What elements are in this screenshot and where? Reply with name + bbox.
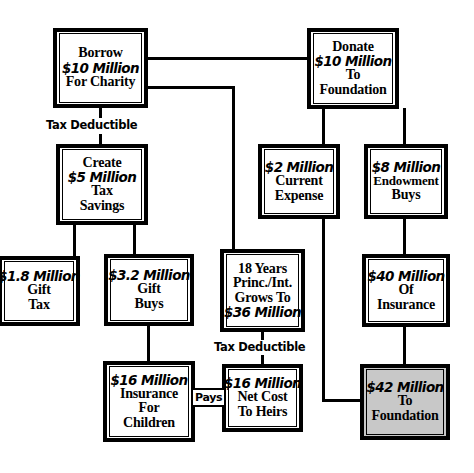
node-gift-buys-line-1: Gift bbox=[137, 282, 160, 297]
node-gift-tax-line-1: Gift bbox=[27, 283, 50, 298]
node-insurance-children-line-2: For bbox=[138, 401, 159, 416]
node-donate-line-0: Donate bbox=[332, 40, 374, 55]
node-donate-inner: Donate $10 Million To Foundation bbox=[313, 33, 393, 104]
node-borrow-line-1: $10 Million bbox=[62, 61, 139, 75]
node-net-cost-line-2: To Heirs bbox=[238, 405, 288, 420]
node-current-expense-line-0: $2 Million bbox=[265, 160, 333, 174]
node-endowment-buys[interactable]: $8 Million Endowment Buys bbox=[364, 144, 448, 219]
node-insurance-children-line-3: Children bbox=[123, 416, 175, 431]
node-foundation-42m-line-0: $42 Million bbox=[366, 380, 443, 394]
node-current-expense-line-1: Current bbox=[275, 174, 322, 189]
node-create-line-2: Tax bbox=[91, 184, 112, 199]
node-growth-inner: 18 Years Princ./Int. Grows To $36 Millio… bbox=[226, 254, 299, 327]
node-donate-line-3: Foundation bbox=[319, 83, 386, 98]
connector-borrow-to-donate bbox=[146, 57, 309, 60]
connector-endowment-to-insurance40 bbox=[403, 217, 406, 255]
edge-label-tax-deductible-mid: Tax Deductible bbox=[213, 340, 306, 354]
connector-create-to-giftbuys-vertical bbox=[133, 223, 136, 255]
node-insurance-for-children[interactable]: $16 Million Insurance For Children bbox=[103, 361, 195, 442]
node-gift-buys-inner: $3.2 Million Gift Buys bbox=[110, 259, 188, 321]
node-donate[interactable]: Donate $10 Million To Foundation bbox=[307, 28, 399, 109]
node-current-expense-line-2: Expense bbox=[275, 189, 323, 204]
connector-borrow-to-growth-horizontal bbox=[146, 86, 235, 89]
node-insurance-40m-line-1: Of bbox=[398, 283, 413, 298]
node-net-cost-line-0: $16 Million bbox=[224, 376, 301, 390]
node-insurance-40m-inner: $40 Million Of Insurance bbox=[368, 259, 444, 322]
node-endowment-buys-inner: $8 Million Endowment Buys bbox=[370, 149, 442, 214]
connector-borrow-to-growth-vertical bbox=[232, 86, 235, 250]
node-endowment-line-0: $8 Million bbox=[372, 160, 440, 174]
node-gift-tax[interactable]: $1.8 Million Gift Tax bbox=[0, 256, 80, 326]
node-current-expense-inner: $2 Million Current Expense bbox=[264, 149, 334, 214]
node-insurance-40m-line-2: Insurance bbox=[377, 298, 435, 313]
node-endowment-line-1: Endowment bbox=[373, 174, 438, 188]
node-gift-buys[interactable]: $3.2 Million Gift Buys bbox=[104, 254, 194, 326]
node-insurance-40m-line-0: $40 Million bbox=[367, 269, 444, 283]
node-principal-interest-growth[interactable]: 18 Years Princ./Int. Grows To $36 Millio… bbox=[220, 249, 305, 332]
connector-current-expense-down bbox=[322, 217, 325, 402]
connector-donate-to-endowment bbox=[403, 108, 406, 145]
connector-donate-to-current-expense bbox=[322, 108, 325, 145]
node-endowment-line-2: Buys bbox=[392, 188, 421, 203]
node-growth-line-2: Grows To bbox=[234, 291, 290, 306]
node-growth-line-3: $36 Million bbox=[224, 305, 301, 319]
node-growth-line-0: 18 Years bbox=[238, 262, 287, 277]
node-gift-buys-line-2: Buys bbox=[135, 297, 164, 312]
edge-label-pays: Pays bbox=[191, 388, 226, 407]
node-create-line-3: Savings bbox=[80, 199, 125, 214]
node-net-cost-to-heirs[interactable]: $16 Million Net Cost To Heirs bbox=[222, 364, 303, 432]
edge-label-tax-deductible-top: Tax Deductible bbox=[45, 118, 138, 132]
node-gift-tax-line-2: Tax bbox=[28, 298, 49, 313]
node-create-line-1: $5 Million bbox=[68, 170, 136, 184]
node-insurance-40m[interactable]: $40 Million Of Insurance bbox=[362, 254, 450, 327]
node-donate-line-1: $10 Million bbox=[314, 54, 391, 68]
connector-giftbuys-to-insurance-children bbox=[147, 325, 150, 362]
node-gift-buys-line-0: $3.2 Million bbox=[108, 268, 190, 282]
node-gift-tax-inner: $1.8 Million Gift Tax bbox=[4, 261, 74, 321]
node-insurance-children-line-1: Insurance bbox=[120, 387, 178, 402]
flowchart-canvas: Borrow $10 Million For Charity Donate $1… bbox=[0, 0, 474, 473]
node-borrow[interactable]: Borrow $10 Million For Charity bbox=[53, 28, 148, 108]
node-insurance-children-line-0: $16 Million bbox=[110, 373, 187, 387]
node-foundation-42m-inner: $42 Million To Foundation bbox=[366, 369, 444, 435]
node-net-cost-inner: $16 Million Net Cost To Heirs bbox=[228, 369, 297, 427]
node-create-tax-savings-inner: Create $5 Million Tax Savings bbox=[62, 149, 142, 220]
connector-create-to-gifttax-vertical bbox=[73, 223, 76, 257]
node-create-tax-savings[interactable]: Create $5 Million Tax Savings bbox=[56, 144, 148, 225]
node-to-foundation-42m[interactable]: $42 Million To Foundation bbox=[360, 364, 450, 440]
node-growth-line-1: Princ./Int. bbox=[233, 276, 292, 291]
node-donate-line-2: To bbox=[346, 68, 361, 83]
connector-current-expense-to-foundation bbox=[322, 399, 364, 402]
node-gift-tax-line-0: $1.8 Million bbox=[0, 269, 80, 283]
node-create-line-0: Create bbox=[83, 156, 122, 171]
node-borrow-inner: Borrow $10 Million For Charity bbox=[59, 33, 142, 103]
node-borrow-line-2: For Charity bbox=[66, 75, 135, 90]
node-insurance-children-inner: $16 Million Insurance For Children bbox=[109, 366, 189, 437]
connector-insurance40-to-foundation bbox=[403, 326, 406, 365]
node-borrow-line-0: Borrow bbox=[78, 46, 122, 61]
node-net-cost-line-1: Net Cost bbox=[237, 390, 287, 405]
node-foundation-42m-line-2: Foundation bbox=[371, 409, 438, 424]
node-foundation-42m-line-1: To bbox=[398, 394, 413, 409]
node-current-expense[interactable]: $2 Million Current Expense bbox=[258, 144, 340, 219]
